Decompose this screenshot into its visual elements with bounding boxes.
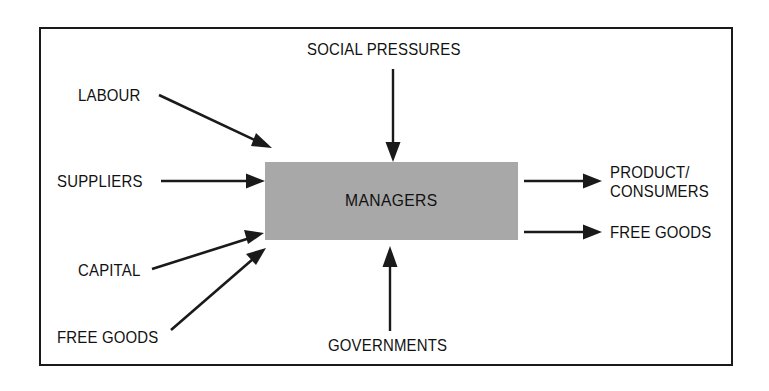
label-free-goods-output: FREE GOODS [610, 223, 712, 242]
label-social-pressures: SOCIAL PRESSURES [307, 40, 461, 59]
label-product-consumers: PRODUCT/ CONSUMERS [610, 163, 709, 201]
managers-node: MANAGERS [265, 162, 518, 240]
label-capital: CAPITAL [78, 261, 140, 280]
label-governments: GOVERNMENTS [328, 336, 447, 355]
label-product-consumers-line1: PRODUCT/ [610, 163, 690, 182]
managers-node-label: MANAGERS [345, 191, 437, 211]
label-labour: LABOUR [78, 86, 141, 105]
label-free-goods-input: FREE GOODS [57, 328, 159, 347]
diagram-root: MANAGERS SOCIAL PRESSURES LABOUR SUPPLIE… [0, 0, 769, 391]
label-suppliers: SUPPLIERS [57, 172, 143, 191]
label-product-consumers-line2: CONSUMERS [610, 182, 709, 201]
